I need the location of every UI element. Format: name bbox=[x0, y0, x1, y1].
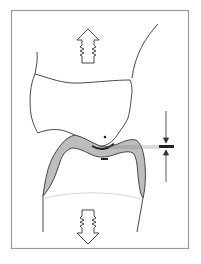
lower-tooth bbox=[43, 135, 145, 232]
cej-line bbox=[45, 193, 141, 199]
diagram-frame bbox=[12, 11, 189, 249]
film-thickness-bar bbox=[159, 145, 174, 148]
dental-occlusion-diagram bbox=[0, 0, 201, 264]
contact-point-dot bbox=[104, 136, 107, 139]
downward-force-arrow-icon bbox=[77, 210, 99, 244]
upward-force-arrow-icon bbox=[77, 29, 99, 63]
contact-point-dash bbox=[101, 158, 108, 160]
enamel-layer bbox=[43, 135, 145, 198]
